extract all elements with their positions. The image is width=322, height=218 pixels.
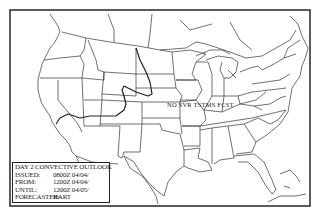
no-severe-thunderstorms-annotation: NO SVR TSTMS FCST bbox=[167, 101, 234, 108]
legend-row-forecaster: FORECASTER: HART bbox=[15, 194, 107, 202]
legend-value: HART bbox=[53, 194, 71, 202]
outlook-legend-box: DAY 2 CONVECTIVE OUTLOOK ISSUED: 0800Z 0… bbox=[12, 162, 110, 203]
legend-key: FORECASTER: bbox=[15, 194, 53, 202]
